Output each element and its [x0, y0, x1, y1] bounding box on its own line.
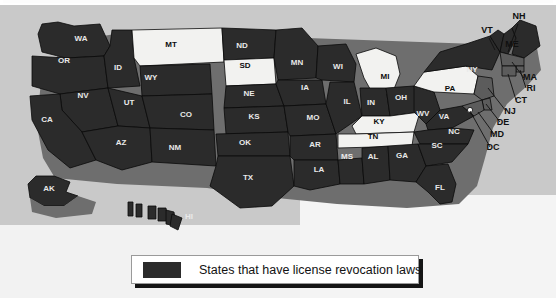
state-label-UT: UT: [124, 98, 135, 107]
state-label-OH: OH: [395, 93, 407, 102]
state-label-NH: NH: [513, 11, 526, 21]
state-label-VA: VA: [439, 112, 450, 121]
state-label-GA: GA: [396, 151, 408, 160]
state-label-SC: SC: [431, 141, 442, 150]
state-label-IA: IA: [301, 83, 309, 92]
state-label-WV: WV: [417, 109, 431, 118]
state-HI-i1[interactable]: [128, 202, 133, 216]
state-OR[interactable]: [32, 56, 108, 94]
state-label-MN: MN: [291, 58, 304, 67]
state-NJ[interactable]: [474, 76, 494, 100]
state-label-IL: IL: [343, 97, 350, 106]
state-label-WA: WA: [75, 34, 88, 43]
state-label-ND: ND: [236, 41, 248, 50]
state-label-MA: MA: [523, 72, 537, 82]
state-HI-i6[interactable]: [170, 214, 182, 230]
state-label-VT: VT: [481, 25, 493, 35]
us-map: WAORIDMTWYNDSDNENVUTCOCAAZNMKSOKTXMNIAMO…: [0, 0, 556, 298]
state-NC[interactable]: [414, 128, 474, 144]
state-label-WI: WI: [333, 62, 343, 71]
state-label-KS: KS: [248, 112, 260, 121]
state-IN[interactable]: [360, 88, 390, 116]
state-label-LA: LA: [314, 165, 325, 174]
state-label-OR: OR: [58, 56, 70, 65]
state-label-DC: DC: [487, 142, 500, 152]
state-label-HI: HI: [185, 212, 193, 221]
state-label-NM: NM: [169, 143, 182, 152]
state-label-CO: CO: [180, 110, 192, 119]
state-label-AK: AK: [43, 184, 55, 193]
state-label-NJ: NJ: [504, 106, 516, 116]
state-label-WY: WY: [145, 73, 159, 82]
state-label-MT: MT: [165, 40, 177, 49]
map-legend: States that have license revocation laws: [131, 255, 419, 284]
state-label-NV: NV: [77, 91, 89, 100]
state-label-ID: ID: [114, 63, 122, 72]
state-OK[interactable]: [216, 132, 290, 156]
state-label-RI: RI: [527, 83, 536, 93]
state-HI-i3[interactable]: [148, 206, 156, 219]
state-label-MI: MI: [381, 72, 390, 81]
state-NM[interactable]: [150, 128, 216, 166]
state-label-NC: NC: [448, 127, 460, 136]
state-label-CT: CT: [515, 95, 527, 105]
state-CT[interactable]: [502, 66, 516, 76]
state-HI-i2[interactable]: [136, 204, 142, 217]
legend-label: States that have license revocation laws: [199, 263, 421, 277]
state-label-DE: DE: [497, 117, 510, 127]
state-MT[interactable]: [132, 28, 224, 66]
state-MS[interactable]: [338, 158, 364, 184]
state-label-KY: KY: [373, 117, 385, 126]
state-label-IN: IN: [367, 98, 375, 107]
state-label-MO: MO: [307, 113, 320, 122]
legend-swatch-has-law: [143, 262, 181, 278]
state-CO[interactable]: [142, 94, 214, 130]
state-TX[interactable]: [210, 156, 294, 208]
state-label-AL: AL: [368, 152, 379, 161]
state-label-MD: MD: [490, 129, 504, 139]
state-label-ME: ME: [505, 39, 519, 49]
state-label-AR: AR: [309, 140, 321, 149]
state-label-TX: TX: [243, 173, 254, 182]
state-label-NE: NE: [243, 89, 255, 98]
state-label-PA: PA: [445, 84, 456, 93]
state-label-OK: OK: [239, 138, 251, 147]
state-label-TN: TN: [368, 132, 379, 141]
state-label-SD: SD: [239, 61, 250, 70]
state-ND[interactable]: [222, 28, 276, 60]
state-label-CA: CA: [41, 115, 53, 124]
state-MN[interactable]: [274, 28, 318, 80]
state-label-AZ: AZ: [116, 138, 127, 147]
state-label-MS: MS: [341, 152, 354, 161]
map-svg: WAORIDMTWYNDSDNENVUTCOCAAZNMKSOKTXMNIAMO…: [0, 0, 556, 298]
state-label-NY: NY: [466, 65, 478, 74]
state-label-FL: FL: [435, 183, 445, 192]
